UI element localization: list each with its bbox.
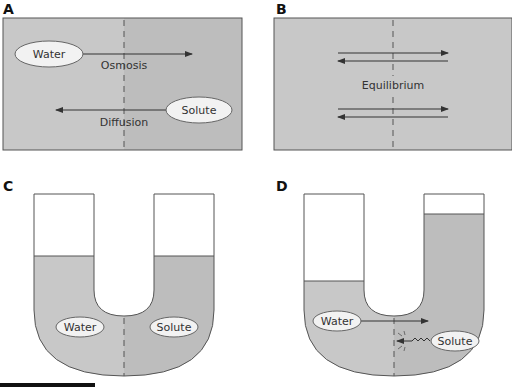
water-label: Water [33, 48, 66, 61]
osmosis-diagram: Water Osmosis Solute Diffusion Equilibri… [0, 0, 512, 387]
panel-a: Water Osmosis Solute Diffusion [3, 18, 242, 150]
footer-bar [0, 383, 95, 387]
solute-label: Solute [182, 104, 217, 117]
osmosis-label: Osmosis [101, 59, 148, 72]
panel-b: Equilibrium [274, 18, 512, 150]
diffusion-label: Diffusion [100, 116, 149, 129]
solute-label: Solute [438, 335, 473, 348]
equilibrium-label: Equilibrium [362, 79, 424, 92]
panel-d: Water Solute [300, 194, 488, 381]
water-label: Water [321, 315, 354, 328]
water-label: Water [64, 321, 97, 334]
solute-label: Solute [157, 321, 192, 334]
panel-c: Water Solute [30, 194, 218, 381]
